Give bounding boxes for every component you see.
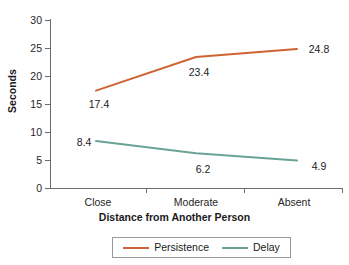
data-label-delay-absent: 4.9 (312, 160, 327, 172)
y-tick-15 (45, 104, 50, 105)
y-tick-label-30: 30 (2, 15, 42, 26)
x-tick-boundary-1 (146, 188, 147, 193)
data-label-persistence-close: 17.4 (89, 98, 109, 110)
y-axis-title: Seconds (6, 61, 18, 121)
x-tick-boundary-2 (244, 188, 245, 193)
y-tick-label-5: 5 (2, 155, 42, 166)
y-tick-25 (45, 48, 50, 49)
data-label-delay-moderate: 6.2 (196, 163, 211, 175)
data-label-persistence-absent: 24.8 (309, 43, 329, 55)
y-tick-10 (45, 132, 50, 133)
data-label-delay-close: 8.4 (77, 136, 92, 148)
x-tick-boundary-3 (342, 188, 343, 193)
y-tick-label-25: 25 (2, 43, 42, 54)
y-tick-0 (45, 188, 50, 189)
y-axis-line (50, 19, 51, 189)
x-axis-title: Distance from Another Person (0, 211, 349, 223)
y-tick-5 (45, 160, 50, 161)
line-chart: 30 25 20 15 10 5 0 Close Moderate Absent… (0, 0, 349, 265)
x-axis-line (50, 188, 343, 189)
x-tick-label-moderate: Moderate (174, 196, 218, 208)
y-tick-label-0: 0 (2, 183, 42, 194)
series-lines (0, 0, 349, 265)
x-tick-label-close: Close (85, 196, 112, 208)
legend-entry-delay[interactable]: Delay (222, 242, 280, 253)
x-tick-label-absent: Absent (278, 196, 311, 208)
y-tick-label-10: 10 (2, 127, 42, 138)
legend-swatch-delay (222, 247, 248, 249)
legend-entry-persistence[interactable]: Persistence (123, 242, 209, 253)
legend-label-delay: Delay (253, 242, 280, 253)
legend-swatch-persistence (123, 247, 149, 249)
chart-legend: Persistence Delay (112, 237, 291, 258)
legend-label-persistence: Persistence (154, 242, 209, 253)
y-tick-30 (45, 20, 50, 21)
line-delay (96, 141, 297, 161)
data-label-persistence-moderate: 23.4 (189, 66, 209, 78)
y-tick-20 (45, 76, 50, 77)
